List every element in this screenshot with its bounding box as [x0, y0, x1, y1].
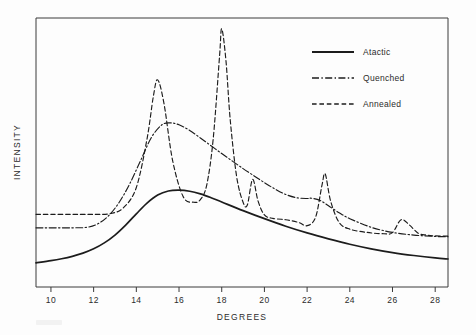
x-axis-title: DEGREES — [217, 312, 268, 322]
chart-legend: AtacticQuenchedAnnealed — [312, 47, 405, 109]
figure-container: 10121416182022242628 DEGREES INTENSITY A… — [0, 0, 476, 335]
legend-label-atactic: Atactic — [363, 47, 391, 57]
x-axis-tick-label: 26 — [387, 295, 397, 305]
x-axis-tick-label: 12 — [89, 295, 99, 305]
series-line-quenched — [36, 123, 448, 237]
x-axis-tick-label: 10 — [46, 295, 56, 305]
xrd-diffractogram-chart: 10121416182022242628 DEGREES INTENSITY A… — [0, 0, 476, 335]
series-line-atactic — [36, 190, 448, 263]
x-axis-tick-label: 18 — [217, 295, 227, 305]
scan-artifact — [36, 320, 62, 325]
x-axis-tick-label: 22 — [302, 295, 312, 305]
x-axis-tick-label: 24 — [345, 295, 355, 305]
y-axis-title: INTENSITY — [12, 124, 22, 180]
x-axis-ticks: 10121416182022242628 — [46, 287, 441, 305]
legend-label-quenched: Quenched — [363, 73, 405, 83]
data-series-group — [36, 29, 448, 263]
series-line-annealed — [36, 29, 448, 236]
x-axis-tick-label: 14 — [131, 295, 141, 305]
x-axis-tick-label: 28 — [430, 295, 440, 305]
legend-label-annealed: Annealed — [363, 99, 401, 109]
x-axis-tick-label: 20 — [259, 295, 269, 305]
x-axis-tick-label: 16 — [174, 295, 184, 305]
